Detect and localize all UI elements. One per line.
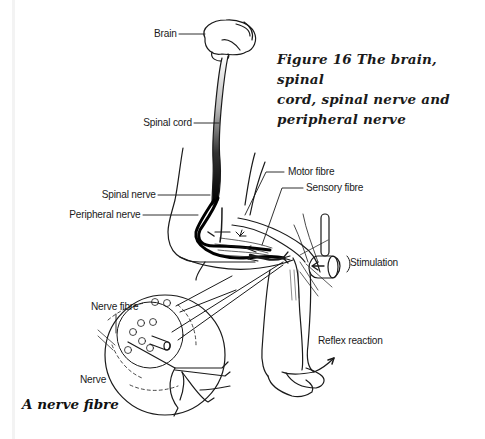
figure-caption: Figure 16 The brain, spinal cord, spinal… [277, 49, 485, 129]
label-nerve-fibre: Nerve fibre [91, 300, 138, 313]
reflex-hammer-drawing [309, 214, 350, 278]
label-sensory-fibre: Sensory fibre [306, 181, 363, 194]
figure-caption-line-2: cord, spinal nerve and [277, 89, 485, 109]
label-reflex-reaction: Reflex reaction [318, 334, 383, 347]
spinal-cord-drawing [212, 56, 228, 205]
figure-caption-line-1: Figure 16 The brain, spinal [277, 49, 485, 89]
figure-caption-line-3: peripheral nerve [277, 109, 485, 129]
brain-drawing [204, 20, 256, 61]
nerve-fibre-inset-drawing [98, 276, 236, 416]
label-nerve: Nerve [80, 373, 106, 386]
label-brain: Brain [154, 27, 177, 40]
label-stimulation: Stimulation [350, 256, 398, 269]
label-spinal-nerve: Spinal nerve [102, 188, 156, 201]
label-peripheral-nerve: Peripheral nerve [70, 208, 141, 221]
label-spinal-cord: Spinal cord [143, 116, 192, 129]
inset-caption: A nerve fibre [22, 396, 119, 412]
label-motor-fibre: Motor fibre [288, 165, 334, 178]
figure-page: Brain Spinal cord Spinal nerve Periphera… [0, 0, 485, 439]
